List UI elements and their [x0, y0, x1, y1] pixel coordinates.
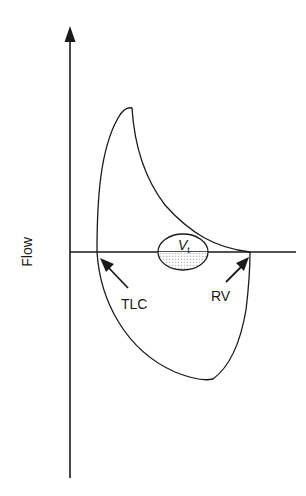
rv-label: RV	[211, 288, 231, 304]
inspiratory-curve	[97, 252, 250, 380]
tlc-label: TLC	[121, 296, 147, 312]
axis-arrowhead-icon	[65, 26, 76, 42]
expiratory-curve	[97, 108, 250, 252]
rv-arrow-icon	[226, 257, 249, 282]
tidal-volume-label: Vt	[178, 237, 190, 255]
y-axis-label: Flow	[19, 236, 35, 266]
tlc-arrow-icon	[100, 258, 128, 288]
flow-volume-loop-diagram: TLC RV Vt Flow	[0, 0, 306, 496]
